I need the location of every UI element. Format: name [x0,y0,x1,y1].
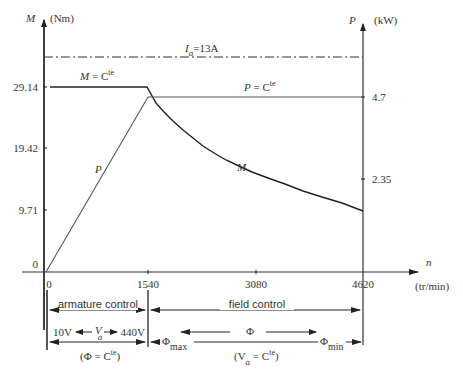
left-axis-unit: (Nm) [50,12,74,25]
right-axis-symbol: P [348,14,356,26]
y-tick-9-71: 9.71 [19,204,38,216]
power-curve [46,97,363,272]
va-symbol: Va [95,324,103,342]
right-tick-4-7: 4.7 [372,91,386,103]
armature-condition: (Φ = Cte) [80,348,121,363]
y-tick-29-14: 29.14 [13,81,38,93]
phi-label: Φ [246,325,254,337]
field-control-label: field control [229,298,285,310]
x-axis-symbol: n [426,256,432,268]
p-const-label: P = Cte [243,79,276,93]
m-const-label: M = Cte [79,68,114,82]
armature-control-label: armature control [58,298,138,310]
x-tick-0: 0 [46,278,52,290]
right-axis-unit: (kW) [374,14,398,27]
x-tick-4620: 4620 [352,278,375,290]
torque-curve [50,87,363,211]
v-end-label: 440V [121,326,146,338]
x-tick-1540: 1540 [137,278,160,290]
curve-m-label: M [236,161,247,173]
field-condition: (Va = Cte) [234,348,279,367]
phi-min-label: Φmin [320,335,344,352]
phi-max-label: Φmax [162,335,187,352]
right-tick-2-35: 2.35 [372,173,392,185]
y-tick-0: 0 [33,258,39,270]
v-start-label: 10V [53,326,72,338]
x-axis-unit: (tr/min) [415,280,450,293]
x-tick-3080: 3080 [245,278,268,290]
y-tick-19-42: 19.42 [13,142,38,154]
torque-power-speed-chart: M (Nm) P (kW) n (tr/min) 29.14 19.42 9.7… [0,0,463,378]
curve-p-label: P [94,163,102,175]
ia-label: Ia=13A [184,42,218,58]
left-axis-symbol: M [25,12,36,24]
